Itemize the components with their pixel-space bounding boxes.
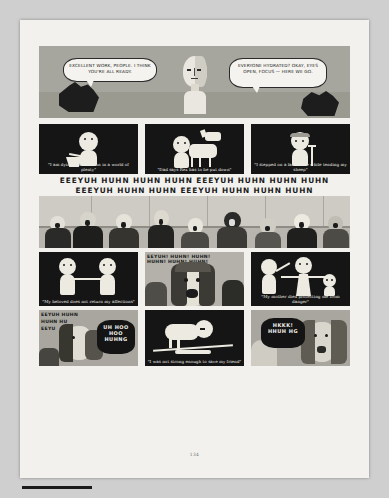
panel-dog: "Dad says Rex has to be put down" [145, 124, 244, 174]
crowd-body [217, 227, 247, 248]
crowd-open-mouth [333, 223, 338, 228]
dog-body [189, 144, 217, 158]
wail-line-1: EEYUH HUHN [41, 312, 78, 318]
dog-leg-2 [199, 157, 201, 167]
panel-mourners-left: EEYUH HUHN HUHN HU EEYU UH HOO HOO HUHNG [39, 310, 138, 366]
woman-open-mouth [186, 289, 198, 298]
speech-bubble-left: EXCELLENT WORK, PEOPLE. I THINK YOU'RE A… [63, 58, 157, 82]
dog-leg-1 [191, 157, 193, 167]
mourner-hair-right [331, 320, 347, 364]
panel-caption: "Dad says Rex has to be put down" [147, 167, 242, 172]
child-eye-right [184, 142, 186, 144]
woman-eye-left [184, 278, 188, 282]
bystander-left [145, 282, 167, 306]
panel-weeping-crowd [39, 196, 350, 248]
panel-beloved: "My beloved does not return my affection… [39, 252, 138, 306]
crowd-body [45, 228, 71, 248]
wail-line-3: EEYU [41, 326, 56, 332]
child-eye [331, 279, 333, 281]
speech-bubble-right: EVERYONE HYDRATED? OKAY, EYES OPEN, FOCU… [229, 58, 327, 88]
director-nose [194, 68, 195, 76]
mother-head [295, 257, 312, 274]
figure-arm [177, 338, 180, 348]
figure-eye [70, 264, 72, 266]
attacker-body [262, 274, 276, 294]
reaching-arm [74, 278, 102, 280]
figure-eye-left [84, 138, 86, 140]
shepherd-eye-right [302, 140, 304, 142]
panel-starvation: "I am dying of starvation in a world of … [39, 124, 138, 174]
bystander-right [222, 280, 244, 306]
child-eye [326, 279, 328, 281]
crowd-body [73, 226, 103, 248]
page-number: 134 [39, 452, 350, 457]
crowd-body [323, 229, 349, 248]
figure-head-right [99, 258, 116, 275]
figure-eye [103, 264, 105, 266]
figure-head-left [59, 258, 76, 275]
mourner-mouth [317, 346, 326, 353]
bystander-left [39, 348, 59, 366]
head-bandage [290, 133, 310, 137]
chant-line-2: EEEYUH HUHN HUHN EEEYUH HUHN HUHN HUHN [39, 186, 350, 196]
crowd-body [109, 228, 139, 248]
comic-page-sheet: EXCELLENT WORK, PEOPLE. I THINK YOU'RE A… [20, 20, 369, 478]
mother-outstretched-arms [281, 276, 325, 278]
dog-head [205, 132, 221, 141]
shepherd-eye-left [295, 140, 297, 142]
scan-edge-bar [22, 486, 92, 489]
director-eye-right [197, 69, 201, 71]
figure-head [79, 132, 98, 151]
comic-page-content: EXCELLENT WORK, PEOPLE. I THINK YOU'RE A… [39, 46, 350, 446]
closed-eye [200, 328, 205, 330]
woman-eye-right [196, 278, 200, 282]
figure-arm [169, 338, 172, 348]
panel-mourners-right: HKKK! HHUH HG [251, 310, 350, 366]
director-eye-left [187, 69, 191, 71]
mother-eye [306, 263, 308, 265]
crutch-top [308, 145, 316, 147]
wail-bubble: HKKK! HHUH HG [261, 318, 305, 348]
crowd-figure [147, 210, 175, 248]
chant-line-1: EEEYUH HUHN HUHN HUHN EEEYUH HUHN HUHN H… [39, 176, 350, 186]
attacker-arm [275, 262, 290, 272]
child-head [173, 136, 190, 153]
panel-caption: "I stepped on a land mine while tending … [253, 162, 348, 172]
attacker-head [261, 259, 277, 275]
crowd-body [181, 232, 209, 248]
figure-body-left [60, 274, 75, 295]
panel-caption: "I was not strong enough to save my frie… [147, 359, 242, 364]
crowd-figure [287, 214, 317, 248]
crowd-figure [255, 218, 281, 248]
panel-landmine: "I stepped on a land mine while tending … [251, 124, 350, 174]
crowd-body [148, 225, 174, 248]
panel-caption: "My beloved does not return my affection… [41, 299, 136, 304]
figure-eye [63, 264, 65, 266]
figure-body-right [100, 274, 115, 295]
child-body [174, 152, 189, 168]
director-head-shadow [195, 56, 207, 87]
panel-top-director: EXCELLENT WORK, PEOPLE. I THINK YOU'RE A… [39, 46, 350, 118]
crowd-figure [45, 216, 71, 248]
mourner-eye [72, 336, 75, 339]
director-mouth [191, 78, 198, 79]
panel-caption: "I am dying of starvation in a world of … [41, 162, 136, 172]
fallen-friend-body [175, 350, 211, 354]
wail-bubble: UH HOO HOO HUHNG [97, 320, 135, 354]
crowd-open-mouth [265, 226, 270, 231]
crowd-figure [217, 212, 247, 248]
crowd-chant-block: EEEYUH HUHN HUHN HUHN EEEYUH HUHN HUHN H… [39, 176, 350, 196]
crowd-body [255, 232, 281, 248]
scan-background: EXCELLENT WORK, PEOPLE. I THINK YOU'RE A… [0, 0, 389, 498]
woman-headscarf [175, 262, 211, 272]
director-body [184, 91, 206, 114]
panel-wailing-woman: EEYUH! HUHN! HUHN! HUHN! HUHN! HUHN! [145, 252, 244, 306]
mourner-hair [59, 324, 73, 362]
panel-mother-died: "My mother died protecting me from dange… [251, 252, 350, 306]
crowd-body [287, 228, 317, 248]
crowd-figure [73, 212, 103, 248]
figure-eye-right [91, 138, 93, 140]
panel-caption: "My mother died protecting me from dange… [253, 294, 348, 304]
panel-fallen-friend: "I was not strong enough to save my frie… [145, 310, 244, 366]
crowd-open-mouth [229, 219, 235, 226]
